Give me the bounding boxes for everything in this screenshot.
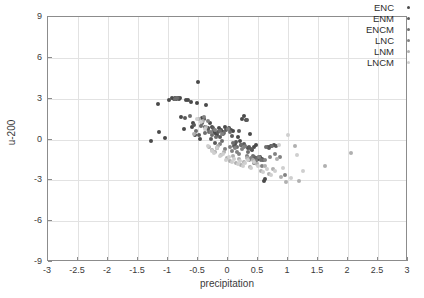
x-tick-mark bbox=[347, 257, 348, 261]
data-point-enm bbox=[183, 116, 187, 120]
data-point-encm bbox=[264, 145, 268, 149]
x-tick-label: -2 bbox=[103, 265, 111, 275]
legend-label: ENM bbox=[373, 13, 394, 24]
data-point-encm bbox=[270, 144, 274, 148]
data-point-enm bbox=[192, 123, 196, 127]
x-tick-label: 0.5 bbox=[251, 265, 264, 275]
data-point-lnc bbox=[242, 145, 246, 149]
data-point-lncm bbox=[286, 133, 290, 137]
data-point-lnc bbox=[257, 155, 261, 159]
legend-label: LNCM bbox=[367, 57, 394, 68]
data-point-enm bbox=[197, 133, 201, 137]
legend-marker-icon bbox=[407, 39, 410, 42]
x-tick-mark bbox=[197, 257, 198, 261]
x-tick-mark bbox=[77, 257, 78, 261]
data-point-lnc bbox=[228, 145, 232, 149]
gridline-vertical bbox=[228, 17, 229, 260]
x-tick-mark bbox=[107, 257, 108, 261]
legend-item-lncm[interactable]: LNCM bbox=[306, 57, 418, 68]
data-point-lnc bbox=[263, 158, 267, 162]
x-tick-label: -2.5 bbox=[69, 265, 85, 275]
gridline-vertical bbox=[78, 17, 79, 260]
legend-label: ENCM bbox=[366, 24, 394, 35]
y-tick-label: 0 bbox=[17, 134, 42, 144]
data-point-enc bbox=[263, 177, 267, 181]
data-point-encm bbox=[231, 141, 235, 145]
y-tick-mark bbox=[48, 139, 52, 140]
y-tick-label: -3 bbox=[17, 174, 42, 184]
y-tick-mark bbox=[48, 57, 52, 58]
y-tick-mark bbox=[48, 179, 52, 180]
x-tick-mark bbox=[137, 257, 138, 261]
data-point-lnc bbox=[283, 173, 287, 177]
legend-item-encm[interactable]: ENCM bbox=[306, 24, 418, 35]
data-point-encm bbox=[175, 96, 179, 100]
x-tick-mark bbox=[317, 257, 318, 261]
gridline-horizontal bbox=[48, 99, 406, 100]
x-tick-label: -1 bbox=[163, 265, 171, 275]
gridline-vertical bbox=[288, 17, 289, 260]
data-point-enm bbox=[245, 118, 249, 122]
x-axis-title: precipitation bbox=[47, 278, 407, 289]
y-tick-mark bbox=[48, 220, 52, 221]
x-tick-mark bbox=[287, 257, 288, 261]
data-point-lncm bbox=[277, 143, 281, 147]
x-tick-mark bbox=[407, 257, 408, 261]
data-point-enc bbox=[189, 100, 193, 104]
y-tick-label: -9 bbox=[17, 256, 42, 266]
x-tick-label: -1.5 bbox=[129, 265, 145, 275]
x-tick-label: -3 bbox=[43, 265, 51, 275]
x-tick-mark bbox=[227, 257, 228, 261]
legend-marker-icon bbox=[407, 61, 410, 64]
y-tick-mark bbox=[48, 98, 52, 99]
gridline-vertical bbox=[168, 17, 169, 260]
legend-item-lnc[interactable]: LNC bbox=[306, 35, 418, 46]
data-point-enc bbox=[198, 137, 202, 141]
x-tick-label: 1 bbox=[284, 265, 289, 275]
y-tick-mark bbox=[48, 261, 52, 262]
data-point-lnm bbox=[284, 180, 288, 184]
legend-item-enc[interactable]: ENC bbox=[306, 2, 418, 13]
legend-label: LNC bbox=[375, 35, 394, 46]
data-point-enc bbox=[182, 127, 186, 131]
scatter-plot-figure: -3-2.5-2-1.5-1-0.500.511.522.53 -9-6-303… bbox=[0, 0, 424, 298]
x-tick-label: 2.5 bbox=[371, 265, 384, 275]
y-tick-mark bbox=[48, 16, 52, 17]
data-point-lnc bbox=[226, 127, 230, 131]
gridline-vertical bbox=[108, 17, 109, 260]
data-point-lncm bbox=[273, 169, 277, 173]
x-tick-label: 1.5 bbox=[311, 265, 324, 275]
legend-marker-icon bbox=[407, 6, 410, 9]
data-point-lnm bbox=[279, 175, 283, 179]
data-point-enm bbox=[237, 129, 241, 133]
y-tick-label: 9 bbox=[17, 11, 42, 21]
data-point-lncm bbox=[195, 117, 199, 121]
x-tick-mark bbox=[257, 257, 258, 261]
data-point-lncm bbox=[249, 166, 253, 170]
data-point-lnm bbox=[293, 144, 297, 148]
y-axis-title: u-200 bbox=[6, 103, 17, 163]
legend-item-lnm[interactable]: LNM bbox=[306, 46, 418, 57]
gridline-horizontal bbox=[48, 221, 406, 222]
x-tick-label: 0 bbox=[224, 265, 229, 275]
data-point-lncm bbox=[215, 146, 219, 150]
data-point-lnc bbox=[206, 119, 210, 123]
data-point-lncm bbox=[227, 155, 231, 159]
legend-item-enm[interactable]: ENM bbox=[306, 13, 418, 24]
data-point-enc bbox=[157, 130, 161, 134]
legend-marker-icon bbox=[407, 50, 410, 53]
data-point-enc bbox=[254, 143, 258, 147]
data-point-enc bbox=[196, 80, 200, 84]
data-point-lncm bbox=[261, 170, 265, 174]
data-point-lncm bbox=[203, 127, 207, 131]
data-point-lncm bbox=[301, 169, 305, 173]
data-point-enc bbox=[156, 102, 160, 106]
data-point-lnc bbox=[268, 155, 272, 159]
data-point-lnc bbox=[213, 128, 217, 132]
data-point-lncm bbox=[221, 152, 225, 156]
legend-label: LNM bbox=[374, 46, 394, 57]
y-tick-label: 3 bbox=[17, 93, 42, 103]
data-point-encm bbox=[214, 135, 218, 139]
data-point-lncm bbox=[206, 144, 210, 148]
data-point-enm bbox=[209, 137, 213, 141]
